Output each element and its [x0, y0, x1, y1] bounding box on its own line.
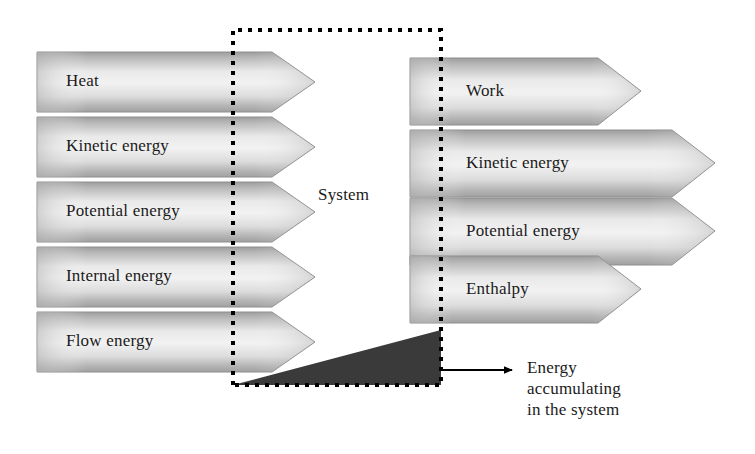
- energy-balance-diagram: Heat Kinetic energy Potential energy Int…: [0, 0, 755, 454]
- accumulation-label: Energy accumulating in the system: [527, 357, 657, 420]
- input-label-kinetic-energy: Kinetic energy: [66, 136, 169, 156]
- output-label-potential-energy: Potential energy: [466, 221, 580, 241]
- accumulation-label-line-2: accumulating: [527, 378, 657, 399]
- accumulation-label-line-1: Energy: [527, 357, 657, 378]
- system-label: System: [318, 185, 369, 205]
- input-label-flow-energy: Flow energy: [66, 331, 153, 351]
- output-arrow-work: [410, 58, 641, 125]
- output-arrow-group: [410, 58, 715, 323]
- output-label-work: Work: [466, 81, 504, 101]
- input-label-internal-energy: Internal energy: [66, 266, 172, 286]
- output-label-enthalpy: Enthalpy: [466, 279, 529, 299]
- input-label-potential-energy: Potential energy: [66, 201, 180, 221]
- input-label-heat: Heat: [66, 71, 99, 91]
- accumulation-label-line-3: in the system: [527, 399, 657, 420]
- output-label-kinetic-energy: Kinetic energy: [466, 153, 569, 173]
